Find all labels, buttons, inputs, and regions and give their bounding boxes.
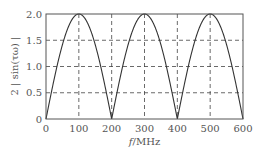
x-tick-label: 600: [233, 123, 252, 134]
x-axis-label: f/MHz: [128, 136, 160, 147]
x-tick-label: 500: [201, 123, 220, 134]
grid-lines: [46, 14, 243, 119]
y-axis-label: 2 | sin(τω) |: [9, 37, 21, 96]
x-tick-label: 0: [43, 123, 49, 134]
y-tick-label: 1.0: [26, 61, 42, 72]
y-tick-label: 1.5: [26, 35, 42, 46]
x-tick-label: 100: [69, 123, 88, 134]
y-tick-label: 0: [36, 114, 42, 125]
y-axis-ticks: 00.51.01.52.0: [26, 9, 42, 125]
x-axis-ticks: 0100200300400500600: [43, 123, 253, 134]
x-tick-label: 200: [102, 123, 121, 134]
y-tick-label: 0.5: [26, 87, 42, 98]
y-tick-label: 2.0: [26, 9, 42, 20]
x-tick-label: 400: [168, 123, 187, 134]
chart: 0100200300400500600 00.51.01.52.0 f/MHz …: [0, 0, 261, 151]
x-tick-label: 300: [135, 123, 154, 134]
